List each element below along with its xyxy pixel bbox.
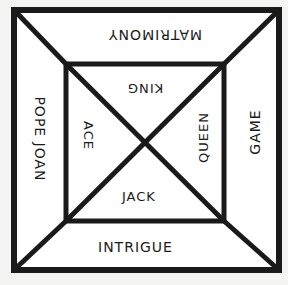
section-intrigue: INTRIGUE: [98, 240, 173, 254]
section-queen: QUEEN: [197, 112, 210, 163]
section-matrimony: MATRIMONY: [108, 28, 202, 42]
section-game: GAME: [248, 109, 262, 154]
section-king: KING: [127, 82, 163, 95]
section-ace: ACE: [82, 121, 95, 150]
section-pope-joan: POPE JOAN: [33, 96, 47, 181]
section-jack: JACK: [122, 190, 156, 203]
